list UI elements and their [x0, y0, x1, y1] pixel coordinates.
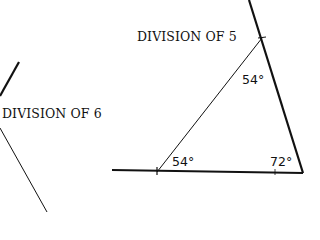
- angle-top: 54°: [242, 72, 264, 87]
- base-line: [112, 170, 303, 173]
- division-line-5: [157, 38, 262, 172]
- angle-bottom-right: 72°: [270, 154, 292, 169]
- tick-mark-top: [258, 37, 266, 38]
- label-division-of-5: DIVISION OF 5: [137, 29, 237, 44]
- label-division-of-6: DIVISION OF 6: [2, 106, 102, 121]
- left-side-line: [0, 62, 19, 96]
- division-line-6: [0, 128, 47, 212]
- angle-bottom-left: 54°: [172, 154, 194, 169]
